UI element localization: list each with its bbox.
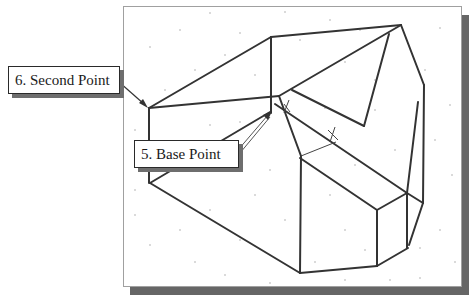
frame-shadow-right <box>462 15 469 295</box>
callout-base-point: 5. Base Point <box>134 140 239 168</box>
figure-canvas: 6. Second Point 5. Base Point <box>0 0 473 298</box>
callout-base-point-label: 5. Base Point <box>141 146 221 162</box>
callout-second-point-label: 6. Second Point <box>15 72 110 88</box>
callout-second-point: 6. Second Point <box>8 66 120 94</box>
frame-shadow-bottom <box>130 287 469 295</box>
